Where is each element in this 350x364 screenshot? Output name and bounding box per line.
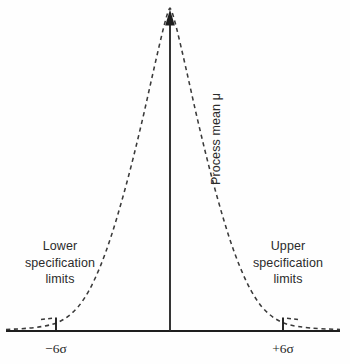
figure-container: Process mean μ Lower specification limit… [0, 0, 350, 364]
upper-spec-line-3: limits [240, 271, 336, 288]
upper-spec-line-1: Upper [240, 238, 336, 255]
upper-spec-limits-label: Upper specification limits [240, 238, 336, 288]
tail-stub-upper [287, 318, 298, 319]
distribution-chart-svg [0, 0, 350, 364]
x-axis-tick-label-lower: −6σ [26, 341, 86, 357]
x-axis-tick-label-upper: +6σ [253, 341, 313, 357]
tail-stub-lower [41, 318, 52, 319]
process-mean-arrowhead [165, 10, 175, 26]
lower-spec-line-1: Lower [12, 238, 108, 255]
lower-spec-line-2: specification [12, 255, 108, 272]
process-mean-axis-label: Process mean μ [209, 69, 227, 209]
upper-spec-line-2: specification [240, 255, 336, 272]
lower-spec-limits-label: Lower specification limits [12, 238, 108, 288]
lower-spec-line-3: limits [12, 271, 108, 288]
